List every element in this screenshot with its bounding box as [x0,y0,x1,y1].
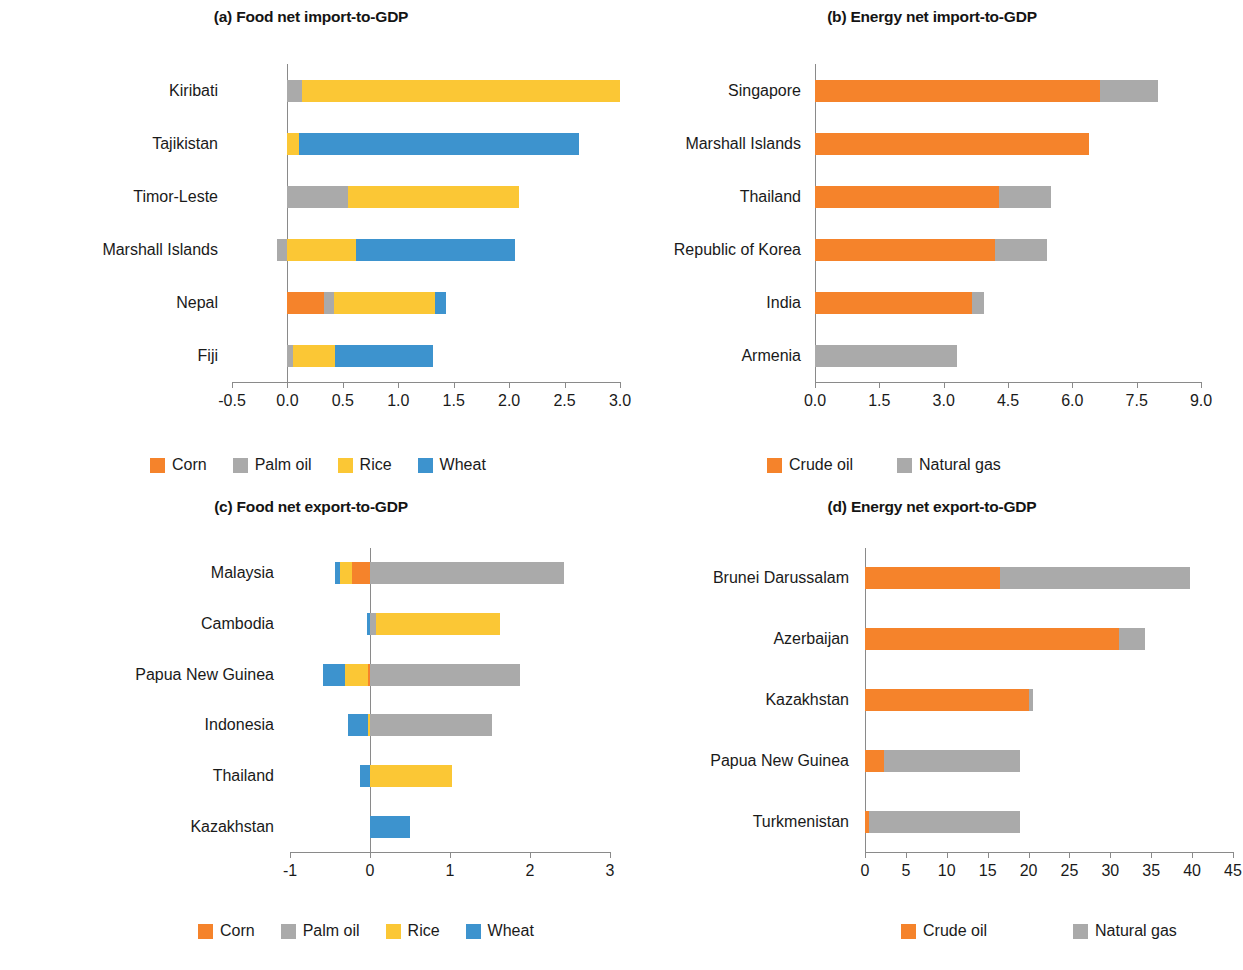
bar-segment [884,750,1021,772]
bar-segment [865,567,1000,589]
x-axis-tick-label: 3.0 [933,392,955,410]
x-axis-tick-label: 3 [606,862,615,880]
x-axis-tick [290,852,291,858]
x-axis-tick-label: 25 [1061,862,1079,880]
legend-item: Wheat [466,922,534,940]
legend-swatch-wheat [418,458,433,473]
x-axis-tick [947,852,948,858]
legend-item: Rice [338,456,392,474]
legend-label: Palm oil [255,456,312,474]
category-label: Brunei Darussalam [713,569,849,587]
panel-a-plot: KiribatiTajikistanTimor-LesteMarshall Is… [232,64,620,382]
category-label: Azerbaijan [773,630,849,648]
x-axis-tick [1233,852,1234,858]
legend-label: Wheat [440,456,486,474]
x-axis-line [232,382,620,383]
category-label: Thailand [740,188,801,206]
x-axis-tick-label: 5 [901,862,910,880]
x-axis-tick-label: -0.5 [218,392,246,410]
panel-d: (d) Energy net export-to-GDP Brunei Daru… [621,498,1243,970]
x-axis-tick [343,382,344,388]
legend-swatch-corn [198,924,213,939]
x-axis-tick [370,852,371,858]
category-label: Kazakhstan [765,691,849,709]
x-axis-tick [815,382,816,388]
bar-segment [815,186,999,208]
bar-segment [370,664,520,686]
category-label: Malaysia [211,564,274,582]
bar-segment [287,133,298,155]
panel-c-plot: MalaysiaCambodiaPapua New GuineaIndonesi… [290,548,610,852]
bar-segment [999,186,1050,208]
category-label: Kiribati [169,82,218,100]
bar-segment [815,133,1089,155]
legend-swatch-rice [338,458,353,473]
panel-d-title: (d) Energy net export-to-GDP [621,498,1243,516]
x-axis-tick-label: 0 [861,862,870,880]
legend-item: Corn [150,456,207,474]
bar-segment [323,664,345,686]
panel-a-legend: CornPalm oilRiceWheat [150,456,486,474]
category-label: Indonesia [205,716,274,734]
bar-segment [1000,567,1191,589]
zero-axis-line [815,64,816,382]
legend-item: Palm oil [281,922,360,940]
x-axis-tick [1008,382,1009,388]
bar-segment [435,292,446,314]
bar-segment [287,80,301,102]
category-label: Papua New Guinea [710,752,849,770]
panel-a-title: (a) Food net import-to-GDP [0,8,622,26]
x-axis-tick [565,382,566,388]
category-label: Papua New Guinea [135,666,274,684]
panel-c-title: (c) Food net export-to-GDP [0,498,622,516]
category-label: Tajikistan [152,135,218,153]
bar-segment [865,689,1029,711]
panel-c: (c) Food net export-to-GDP MalaysiaCambo… [0,498,622,970]
x-axis-tick [1110,852,1111,858]
figure-root: (a) Food net import-to-GDP KiribatiTajik… [0,0,1243,970]
bar-segment [370,765,452,787]
x-axis-tick [509,382,510,388]
category-label: Armenia [741,347,801,365]
bar-segment [360,765,370,787]
x-axis-tick-label: 1.5 [443,392,465,410]
bar-segment [348,186,519,208]
category-label: Fiji [198,347,218,365]
bar-segment [335,345,433,367]
panel-b-title: (b) Energy net import-to-GDP [621,8,1243,26]
bar-segment [370,816,410,838]
legend-label: Wheat [488,922,534,940]
panel-d-legend: Crude oilNatural gas [901,922,1177,940]
bar-segment [340,562,352,584]
legend-label: Rice [408,922,440,940]
category-label: Republic of Korea [674,241,801,259]
panel-b-legend: Crude oilNatural gas [767,456,1001,474]
category-label: Marshall Islands [685,135,801,153]
x-axis-tick [1137,382,1138,388]
legend-label: Palm oil [303,922,360,940]
legend-item: Natural gas [1073,922,1177,940]
bar-segment [815,239,995,261]
x-axis-tick [287,382,288,388]
legend-label: Crude oil [789,456,853,474]
category-label: Turkmenistan [753,813,849,831]
bar-segment [815,292,972,314]
x-axis-tick [232,382,233,388]
x-axis-tick-label: 7.5 [1126,392,1148,410]
x-axis-tick-label: 30 [1101,862,1119,880]
bar-segment [345,664,367,686]
legend-item: Wheat [418,456,486,474]
bar-segment [335,562,341,584]
x-axis-tick-label: 1.0 [387,392,409,410]
x-axis-tick-label: 6.0 [1061,392,1083,410]
x-axis-line [865,852,1233,853]
bar-segment [1100,80,1158,102]
category-label: Cambodia [201,615,274,633]
legend-swatch-crude-oil [901,924,916,939]
category-label: Singapore [728,82,801,100]
category-label: India [766,294,801,312]
x-axis-tick [1029,852,1030,858]
bar-segment [287,186,348,208]
x-axis-tick [988,852,989,858]
bar-segment [869,811,1019,833]
